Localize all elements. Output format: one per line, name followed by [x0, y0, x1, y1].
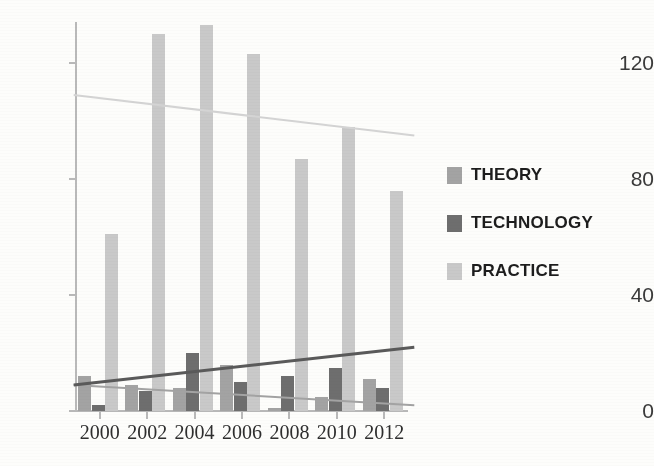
bar-chart: 04080120 2000200220042006200820102012 TH… — [0, 0, 654, 466]
trendline-theory — [74, 385, 415, 405]
y-axis-label: 0 — [606, 400, 654, 421]
y-axis-label: 120 — [606, 52, 654, 73]
legend-item-practice[interactable]: PRACTICE — [447, 261, 593, 281]
y-axis-label: 40 — [606, 284, 654, 305]
legend-label: PRACTICE — [471, 261, 560, 281]
x-axis-label: 2012 — [354, 422, 414, 442]
chart-legend: THEORYTECHNOLOGYPRACTICE — [447, 165, 593, 309]
x-axis-tick — [383, 411, 385, 419]
trendline-technology — [74, 347, 415, 385]
x-axis-tick — [241, 411, 243, 419]
x-axis-tick — [99, 411, 101, 419]
trendlines-layer — [76, 20, 408, 411]
trendline-practice — [74, 95, 415, 136]
y-axis-label: 80 — [606, 168, 654, 189]
legend-label: TECHNOLOGY — [471, 213, 593, 233]
x-axis-tick — [194, 411, 196, 419]
legend-swatch-icon — [447, 167, 462, 184]
legend-item-technology[interactable]: TECHNOLOGY — [447, 213, 593, 233]
legend-item-theory[interactable]: THEORY — [447, 165, 593, 185]
x-axis-tick — [288, 411, 290, 419]
legend-swatch-icon — [447, 215, 462, 232]
legend-swatch-icon — [447, 263, 462, 280]
x-axis-tick — [336, 411, 338, 419]
x-axis-tick — [146, 411, 148, 419]
legend-label: THEORY — [471, 165, 542, 185]
